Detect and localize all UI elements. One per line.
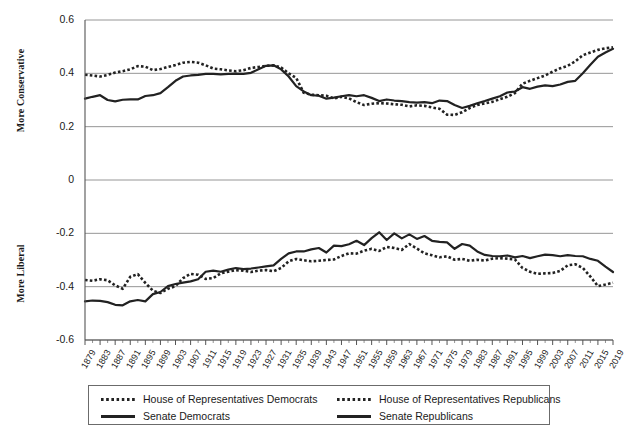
legend-swatch-solid-senate-republicans	[337, 411, 371, 421]
y-tick-label: -0.4	[40, 280, 74, 292]
legend-entry-senate-democrats: Senate Democrats	[101, 408, 230, 424]
axis-ticks	[85, 340, 613, 345]
legend-swatch-solid-senate-democrats	[101, 411, 135, 421]
y-tick-label: 0.4	[40, 66, 74, 78]
y-axis-lower-label: More Liberal	[15, 234, 26, 314]
y-tick-label: -0.2	[40, 226, 74, 238]
y-tick-label: 0	[40, 173, 74, 185]
legend-entry-senate-republicans: Senate Republicans	[337, 408, 473, 424]
legend-label-house-republicans: House of Representatives Republicans	[379, 393, 561, 405]
y-axis-upper-label: More Conservative	[15, 41, 26, 141]
legend-swatch-dotted-house-democrats	[101, 394, 135, 404]
legend-entry-house-republicans: House of Representatives Republicans	[337, 391, 561, 407]
legend-label-senate-republicans: Senate Republicans	[379, 410, 473, 422]
legend-label-house-democrats: House of Representatives Democrats	[143, 393, 318, 405]
series-line	[85, 244, 613, 293]
legend-label-senate-democrats: Senate Democrats	[143, 410, 230, 422]
y-tick-label: 0.6	[40, 13, 74, 25]
data-series	[85, 47, 613, 305]
chart-legend: House of Representatives Democrats House…	[88, 385, 550, 425]
y-tick-label: -0.6	[40, 333, 74, 345]
series-line	[85, 232, 613, 305]
legend-entry-house-democrats: House of Representatives Democrats	[101, 391, 318, 407]
series-line	[85, 47, 613, 115]
legend-swatch-dotted-house-republicans	[337, 394, 371, 404]
y-tick-label: 0.2	[40, 120, 74, 132]
chart-figure: More Conservative More Liberal 0.60.40.2…	[0, 0, 638, 429]
